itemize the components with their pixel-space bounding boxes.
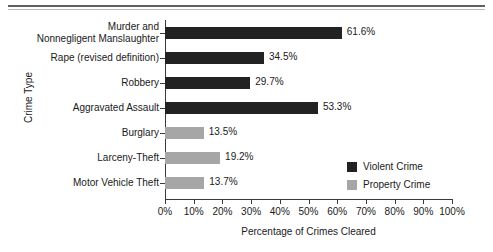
legend-swatch-property-crime xyxy=(347,180,357,190)
x-axis-tick xyxy=(452,199,453,204)
x-axis-tick xyxy=(194,199,195,204)
x-axis-title: Percentage of Crimes Cleared xyxy=(165,226,452,237)
bar-violent xyxy=(165,27,342,39)
legend-label-property-crime: Property Crime xyxy=(363,179,430,191)
x-axis-tick-label: 100% xyxy=(432,205,472,218)
category-label: Aggravated Assault xyxy=(73,102,159,114)
bar-value-label: 61.6% xyxy=(347,25,375,39)
category-label-line: Robbery xyxy=(121,77,159,89)
x-axis-tick xyxy=(165,199,166,204)
x-axis-tick xyxy=(251,199,252,204)
bar-row: 13.5% xyxy=(165,121,452,146)
legend-swatch-violent-crime xyxy=(347,162,357,172)
category-label: Burglary xyxy=(122,127,159,139)
category-label-line: Aggravated Assault xyxy=(73,102,159,114)
bar-value-label: 13.7% xyxy=(209,175,237,189)
bar-row: 29.7% xyxy=(165,71,452,96)
category-label: Rape (revised definition) xyxy=(51,52,159,64)
bar-property xyxy=(165,177,204,189)
bar-value-label: 29.7% xyxy=(255,75,283,89)
bar-chart-figure: Crime Type 61.6%34.5%29.7%53.3%13.5%19.2… xyxy=(0,0,493,252)
page-rule-thin xyxy=(8,9,485,10)
chart-legend: Violent Crime Property Crime xyxy=(347,158,430,194)
category-label-line: Rape (revised definition) xyxy=(51,52,159,64)
bar-value-label: 53.3% xyxy=(323,100,351,114)
bar-value-label: 13.5% xyxy=(209,125,237,139)
category-label: Motor Vehicle Theft xyxy=(73,177,159,189)
category-label-line: Larceny-Theft xyxy=(97,152,159,164)
x-axis-tick xyxy=(222,199,223,204)
category-label: Murder andNonnegligent Manslaughter xyxy=(37,21,159,45)
bar-row: 61.6% xyxy=(165,21,452,46)
category-label: Larceny-Theft xyxy=(97,152,159,164)
bar-property xyxy=(165,127,204,139)
category-label-line: Murder and xyxy=(37,21,159,33)
bar-row: 53.3% xyxy=(165,96,452,121)
bar-property xyxy=(165,152,220,164)
legend-item-violent-crime: Violent Crime xyxy=(347,158,430,176)
x-axis-tick xyxy=(337,199,338,204)
x-axis-tick xyxy=(366,199,367,204)
y-axis-title: Crime Type xyxy=(23,38,34,158)
bar-violent xyxy=(165,77,250,89)
category-label-line: Motor Vehicle Theft xyxy=(73,177,159,189)
bar-value-label: 19.2% xyxy=(225,150,253,164)
category-label-line: Burglary xyxy=(122,127,159,139)
category-label: Robbery xyxy=(121,77,159,89)
x-axis-tick xyxy=(309,199,310,204)
bar-row: 34.5% xyxy=(165,46,452,71)
x-axis-tick xyxy=(395,199,396,204)
bar-value-label: 34.5% xyxy=(269,50,297,64)
bar-violent xyxy=(165,52,264,64)
page-rule-thick xyxy=(8,5,485,7)
x-axis-tick xyxy=(423,199,424,204)
legend-label-violent-crime: Violent Crime xyxy=(363,161,423,173)
x-axis-tick xyxy=(280,199,281,204)
bar-violent xyxy=(165,102,318,114)
category-label-line: Nonnegligent Manslaughter xyxy=(37,33,159,45)
legend-item-property-crime: Property Crime xyxy=(347,176,430,194)
